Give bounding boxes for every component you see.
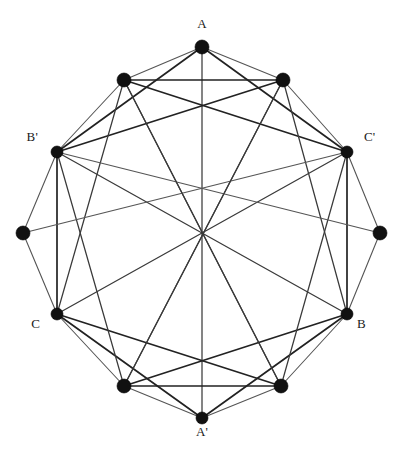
graph-vertex — [196, 412, 208, 424]
graph-edge — [347, 233, 380, 314]
graph-edge — [57, 314, 202, 418]
graph-edge — [202, 386, 281, 418]
vertex-label-c: C — [31, 317, 40, 330]
graph-vertex — [117, 73, 131, 87]
vertex-label-cprime: C' — [364, 130, 375, 143]
graph-edge — [23, 152, 347, 233]
graph-vertex — [341, 308, 353, 320]
vertex-label-b: B — [357, 317, 366, 330]
graph-vertex — [341, 146, 353, 158]
graph-vertex — [195, 40, 209, 54]
graph-edge — [281, 152, 347, 386]
graph-edge — [57, 47, 202, 152]
vertex-label-a: A — [197, 17, 207, 30]
graph-edge — [347, 152, 380, 233]
graph-vertex — [117, 379, 131, 393]
graph-vertex — [276, 73, 290, 87]
vertex-label-aprime: A' — [196, 425, 208, 438]
graph-edge — [57, 152, 380, 233]
graph-edge — [124, 80, 347, 152]
graph-edge — [23, 152, 57, 233]
graph-vertex — [51, 146, 63, 158]
graph-edge — [202, 314, 347, 418]
graph-edge — [57, 152, 124, 386]
graph-edge — [57, 80, 124, 314]
graph-vertex — [373, 226, 387, 240]
graph-edge — [283, 80, 347, 314]
graph-svg — [0, 0, 402, 469]
figure-canvas: AC'BA'CB' — [0, 0, 402, 469]
edges-group — [23, 47, 380, 418]
graph-edge — [23, 233, 57, 314]
graph-edge — [202, 47, 283, 80]
graph-vertex — [274, 379, 288, 393]
vertex-label-bprime: B' — [27, 130, 38, 143]
graph-vertex — [16, 226, 30, 240]
graph-vertex — [51, 308, 63, 320]
